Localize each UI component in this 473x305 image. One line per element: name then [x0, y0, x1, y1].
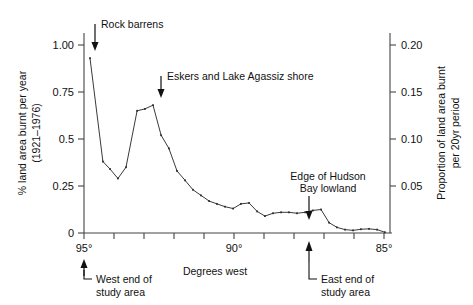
- west-end-arrowhead: [81, 259, 88, 268]
- series-data-point: [288, 211, 290, 213]
- series-data-point: [192, 189, 194, 191]
- west-end-bracket: [84, 270, 92, 279]
- series-data-point: [256, 210, 258, 212]
- series-data-point: [360, 228, 362, 230]
- series-data-point: [176, 170, 178, 172]
- series-data-point: [296, 212, 298, 214]
- east-end-label-line1: East end of: [321, 273, 374, 285]
- series-data-point: [109, 168, 111, 170]
- series-data-point: [208, 200, 210, 202]
- xtick-label-90: 90°: [226, 242, 243, 254]
- annotation-rock-barrens-label: Rock barrens: [101, 18, 163, 30]
- ytick-label-0: 0: [68, 227, 74, 239]
- series-data-point: [136, 110, 138, 112]
- annotation-rock-barrens-arrowhead: [92, 42, 99, 51]
- west-end-label-line1: West end of: [96, 273, 152, 285]
- left-axis-title-line1: % land area burnt per year: [16, 70, 28, 195]
- series-data-point: [160, 134, 162, 136]
- ytick-label-0.5: 0.5: [59, 133, 74, 145]
- right-axis-ticks: 0.20 0.15 0.10 0.05: [390, 39, 422, 192]
- series-data-point: [248, 202, 250, 204]
- y2tick-label-0.10: 0.10: [401, 133, 422, 145]
- ytick-label-0.75: 0.75: [53, 86, 74, 98]
- series-data-point: [304, 211, 306, 213]
- east-end-label-line2: study area: [321, 286, 370, 298]
- chart-svg: 1.00 0.75 0.5 0.25 0 0.20 0.15 0.10 0.05: [0, 0, 473, 305]
- x-axis-title: Degrees west: [183, 265, 247, 277]
- series-markers: [89, 57, 386, 233]
- xtick-label-95: 95°: [76, 242, 93, 254]
- series-data-point: [240, 203, 242, 205]
- right-axis-title-line1: Proportion of land area burnt: [435, 66, 447, 200]
- series-data-point: [152, 104, 154, 106]
- series-data-point: [168, 148, 170, 150]
- series-data-point: [232, 208, 234, 210]
- annotation-eskers-arrowhead: [158, 89, 165, 98]
- series-data-point: [102, 161, 104, 163]
- series-data-point: [89, 57, 91, 59]
- xtick-label-85: 85°: [376, 242, 393, 254]
- series-data-point: [184, 179, 186, 181]
- annotation-rock-barrens: Rock barrens: [92, 18, 164, 51]
- x-axis-ticks: 95° 90° 85°: [76, 233, 393, 254]
- series-data-point: [352, 229, 354, 231]
- series-data-point: [200, 195, 202, 197]
- series-data-point: [144, 108, 146, 110]
- data-series-group: [89, 57, 386, 233]
- annotation-eskers-label: Eskers and Lake Agassiz shore: [167, 70, 314, 82]
- series-data-point: [224, 206, 226, 208]
- annotation-hudson-bay-arrowhead: [306, 211, 313, 220]
- series-data-point: [368, 228, 370, 230]
- y2tick-label-0.15: 0.15: [401, 86, 422, 98]
- annotation-eskers: Eskers and Lake Agassiz shore: [158, 70, 314, 98]
- series-data-point: [272, 212, 274, 214]
- y2tick-label-0.20: 0.20: [401, 39, 422, 51]
- series-data-point: [376, 229, 378, 231]
- y2tick-label-0.05: 0.05: [401, 180, 422, 192]
- west-end-label-line2: study area: [96, 286, 145, 298]
- annotation-hudson-bay-label-line1: Edge of Hudson: [290, 170, 365, 182]
- left-axis-title-line2: (1921–1976): [30, 103, 42, 163]
- series-data-point: [125, 166, 127, 168]
- east-end-bracket: [309, 262, 317, 279]
- annotation-hudson-bay-label-line2: Bay lowland: [300, 182, 357, 194]
- axes-group: [84, 33, 392, 233]
- series-data-point: [384, 231, 386, 233]
- series-data-point: [264, 215, 266, 217]
- ytick-label-0.25: 0.25: [53, 180, 74, 192]
- series-data-point: [328, 222, 330, 224]
- series-data-point: [320, 209, 322, 211]
- series-data-point: [280, 211, 282, 213]
- right-axis-title-line2: per 20yr period: [449, 98, 461, 169]
- east-end-arrowhead: [306, 241, 313, 251]
- series-data-point: [117, 178, 119, 180]
- left-axis-ticks: 1.00 0.75 0.5 0.25 0: [53, 39, 84, 239]
- chart-figure: 1.00 0.75 0.5 0.25 0 0.20 0.15 0.10 0.05: [0, 0, 473, 305]
- marker-east-end-of-study-area: East end of study area: [306, 241, 375, 298]
- series-data-point: [336, 226, 338, 228]
- marker-west-end-of-study-area: West end of study area: [81, 259, 152, 298]
- series-data-point: [216, 203, 218, 205]
- series-data-point: [344, 229, 346, 231]
- series-line-percent-burnt: [90, 58, 385, 232]
- ytick-label-1.00: 1.00: [53, 39, 74, 51]
